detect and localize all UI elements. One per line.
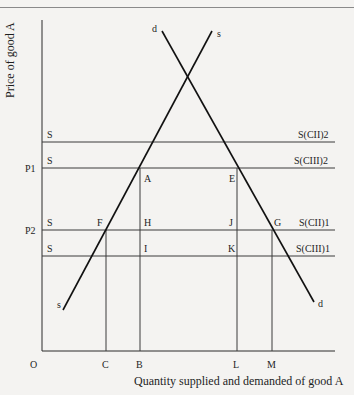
point-label-i: I <box>144 244 147 254</box>
y-axis-label: Price of good A <box>3 22 18 98</box>
price-label-p1: P1 <box>25 164 36 174</box>
demand-label-top: d <box>152 24 157 34</box>
point-label-j: J <box>229 218 233 228</box>
supply-curve <box>63 31 212 310</box>
point-label-k: K <box>228 244 235 254</box>
demand-label-bottom: d <box>318 299 323 309</box>
origin-label: O <box>30 360 37 370</box>
point-label-e: E <box>229 174 235 184</box>
supply-left-label-1: S <box>47 130 53 140</box>
supply-right-label-ciii-2: S(CIII)2 <box>294 156 328 166</box>
quantity-label-m: M <box>267 360 276 370</box>
x-axis-label: Quantity supplied and demanded of good A <box>134 374 343 389</box>
supply-label-top: s <box>217 29 221 39</box>
supply-right-label-cii-1: S(CII)1 <box>299 218 330 228</box>
supply-right-label-cii-2: S(CII)2 <box>298 130 329 140</box>
point-label-g: G <box>274 218 281 228</box>
point-label-h: H <box>144 218 151 228</box>
demand-curve <box>162 31 314 302</box>
price-label-p2: P2 <box>25 226 36 236</box>
supply-label-bottom: s <box>57 300 61 310</box>
supply-left-label-4: S <box>47 244 53 254</box>
supply-demand-diagram <box>0 0 354 395</box>
supply-left-label-2: S <box>47 156 53 166</box>
supply-left-label-3: S <box>47 218 53 228</box>
quantity-label-c: C <box>102 360 109 370</box>
point-label-f: F <box>97 218 103 228</box>
quantity-label-b: B <box>136 360 143 370</box>
quantity-label-l: L <box>233 360 239 370</box>
supply-right-label-ciii-1: S(CIII)1 <box>296 244 330 254</box>
point-label-a: A <box>144 174 151 184</box>
